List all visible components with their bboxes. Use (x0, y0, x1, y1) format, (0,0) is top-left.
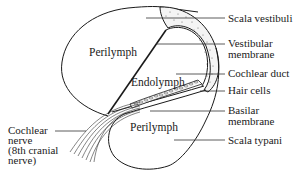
cochlear-nerve-label-4: nerve) (8, 154, 36, 167)
endolymph-label: Endolymph (131, 76, 185, 89)
scala-vestibuli-label: Scala vestibuli (228, 12, 292, 24)
basilar-membrane-label-2: membrane (228, 115, 275, 127)
cochlear-duct-label: Cochlear duct (228, 67, 289, 79)
hair-cells-label: Hair cells (228, 84, 270, 96)
scala-typani-label: Scala typani (228, 134, 282, 146)
cochlea-diagram: Perilymph Endolymph Perilymph Scala vest… (0, 0, 300, 176)
vestibular-membrane-label-2: membrane (228, 48, 275, 60)
upper-perilymph-label: Perilymph (89, 46, 137, 59)
lower-perilymph-label: Perilymph (130, 121, 178, 134)
